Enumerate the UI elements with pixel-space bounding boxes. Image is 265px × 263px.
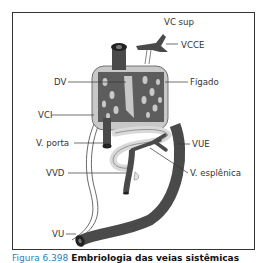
label-vc-sup: VC sup: [164, 18, 194, 27]
label-v-porta: V. porta: [36, 139, 69, 148]
label-vu: VU: [52, 230, 64, 239]
label-vci: VCI: [38, 111, 52, 120]
label-v-esplenica: V. esplênica: [190, 169, 241, 178]
v-porta-icon: [103, 118, 112, 149]
label-vvd: VVD: [46, 169, 64, 178]
label-dv: DV: [54, 78, 66, 87]
vc-sup-icon: [111, 43, 127, 70]
figure-caption: Figura 6.398Embriologia das veias sistêm…: [12, 254, 239, 263]
vvd-icon: [126, 150, 132, 192]
caption-title: Embriologia das veias sistêmicas: [71, 253, 239, 263]
vcce-icon: [136, 34, 168, 64]
label-figado: Fígado: [190, 78, 219, 87]
vci-outline-icon: [72, 118, 102, 240]
label-vue: VUE: [192, 140, 210, 149]
label-vcce: VCCE: [181, 41, 204, 50]
caption-number: Figura 6.398: [12, 253, 68, 263]
